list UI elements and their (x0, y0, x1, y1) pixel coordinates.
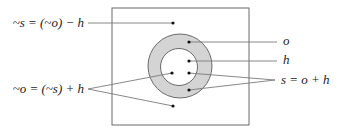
label-not-o: ~o = (~s) + h (13, 81, 84, 96)
label-not-s: ~s = (~o) − h (13, 15, 84, 30)
dot-h (187, 59, 190, 62)
label-o: o (283, 33, 290, 48)
inner-circle-h (161, 49, 198, 86)
dot-s-ring (187, 88, 190, 91)
set-diagram: ~s = (~o) − h ~o = (~s) + h o h s = o + … (0, 0, 342, 129)
dot-not-o-inner (170, 71, 173, 74)
label-h: h (283, 52, 290, 67)
dot-o (187, 40, 190, 43)
dot-s-inner (187, 71, 190, 74)
label-s: s = o + h (281, 72, 330, 87)
dot-not-o-outer (171, 104, 174, 107)
dot-not-s (171, 21, 174, 24)
